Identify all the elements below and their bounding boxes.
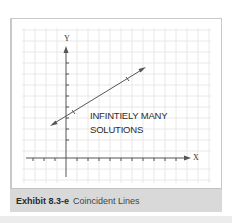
x-axis-label: X [193, 153, 199, 162]
exhibit-number: Exhibit 8.3-e [16, 196, 69, 206]
x-axis [26, 156, 191, 162]
y-axis-label: Y [64, 34, 70, 43]
exhibit-caption: Exhibit 8.3-e Coincident Lines [10, 188, 222, 212]
grid [22, 28, 211, 183]
annotation-line-2: SOLUTIONS [90, 124, 143, 136]
y-axis [64, 46, 70, 177]
exhibit-title: Coincident Lines [73, 196, 140, 206]
page-bottom-strip [0, 216, 232, 223]
annotation-line-1: INFINTIELY MANY [90, 110, 167, 122]
